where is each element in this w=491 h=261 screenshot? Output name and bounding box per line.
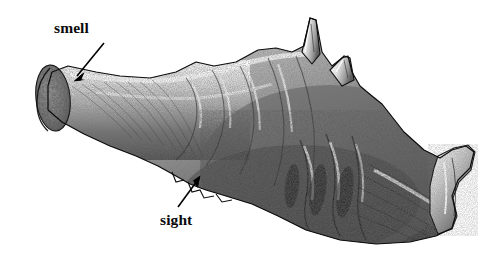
sight-arrow-shaft	[178, 181, 197, 207]
endocast-illustration	[0, 0, 491, 261]
posterior-flare	[428, 144, 478, 236]
figure-root: smell sight	[0, 0, 491, 261]
annotation-label-smell: smell	[54, 20, 89, 36]
annotation-label-sight: sight	[160, 212, 192, 228]
endocast-body	[40, 10, 490, 255]
